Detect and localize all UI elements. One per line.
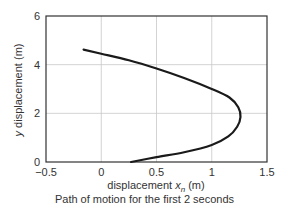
- y-axis-label-post: displacement (m): [12, 44, 24, 131]
- x-tick-label: 1.5: [259, 166, 274, 178]
- y-axis-label: y displacement (m): [12, 44, 24, 138]
- y-tick-label: 2: [34, 107, 40, 119]
- y-tick-labels: 0246: [34, 10, 40, 168]
- motion-path-curve: [84, 50, 241, 162]
- x-tick-labels: −0.500.511.5: [35, 166, 275, 178]
- x-tick-label: 0.5: [149, 166, 164, 178]
- y-tick-label: 4: [34, 59, 40, 71]
- x-axis-label-post: (m): [185, 179, 205, 191]
- y-tick-label: 6: [34, 10, 40, 22]
- chart-caption: Path of motion for the first 2 seconds: [0, 193, 289, 205]
- x-tick-label: 0: [98, 166, 104, 178]
- x-axis-label: displacement xn (m): [107, 179, 204, 194]
- x-axis-label-pre: displacement: [107, 179, 175, 191]
- grid-lines: [46, 16, 267, 162]
- x-tick-label: 1: [209, 166, 215, 178]
- path-of-motion-chart: 0246 −0.500.511.5 displacement xn (m) y …: [0, 0, 289, 213]
- x-tick-label: −0.5: [35, 166, 57, 178]
